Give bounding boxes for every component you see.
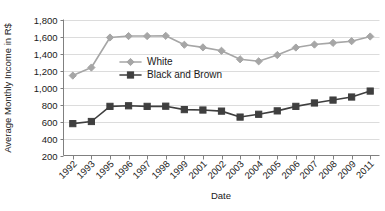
data-point — [293, 103, 299, 109]
data-point — [256, 111, 262, 117]
data-point — [274, 108, 280, 114]
legend-marker-shape — [127, 58, 134, 65]
y-axis — [61, 20, 64, 157]
x-tick-label: 1992 — [56, 158, 79, 181]
x-tick-label: 1997 — [130, 158, 153, 181]
x-tick-labels: 1992199319951996199719981999200120022003… — [56, 158, 376, 181]
y-tick-label: 1,200 — [34, 66, 58, 77]
y-tick-label: 800 — [42, 100, 58, 111]
data-point — [329, 39, 336, 46]
data-point — [70, 121, 76, 127]
y-axis-title: Average Monthly Income in R$ — [2, 22, 13, 152]
data-point — [330, 97, 336, 103]
y-tick-label: 1,600 — [34, 32, 58, 43]
data-point — [181, 41, 188, 48]
x-tick-marks — [74, 156, 371, 160]
legend-marker-shape — [127, 72, 133, 78]
data-point — [88, 64, 95, 71]
legend-label-white: White — [147, 56, 173, 67]
data-point — [163, 103, 169, 109]
x-tick-label: 2007 — [297, 158, 320, 181]
x-tick-label: 2008 — [316, 158, 339, 181]
x-tick-label: 2004 — [242, 158, 265, 181]
series-line — [73, 91, 370, 124]
data-point — [236, 56, 243, 63]
data-point — [348, 38, 355, 45]
y-tick-labels: 2004006008001,0001,2001,4001,6001,800 — [34, 15, 58, 162]
data-point — [255, 58, 262, 65]
legend: White Black and Brown — [120, 56, 222, 80]
data-point — [69, 72, 76, 79]
x-tick-label: 1993 — [74, 158, 97, 181]
legend-label-black-and-brown: Black and Brown — [147, 69, 222, 80]
data-point — [367, 33, 374, 40]
data-point — [107, 103, 113, 109]
x-tick-label: 2006 — [279, 158, 302, 181]
legend-marker-white — [127, 58, 134, 65]
x-axis — [64, 156, 380, 160]
data-point — [125, 32, 132, 39]
data-point — [274, 51, 281, 58]
chart-container: 2004006008001,0001,2001,4001,6001,800 19… — [0, 0, 385, 211]
legend-item-black-and-brown[interactable]: Black and Brown — [120, 69, 222, 80]
y-tick-label: 1,400 — [34, 49, 58, 60]
y-tick-label: 1,800 — [34, 15, 58, 26]
data-point — [237, 114, 243, 120]
legend-marker-black-and-brown — [127, 72, 133, 78]
y-tick-label: 1,000 — [34, 83, 58, 94]
x-axis-title: Date — [211, 190, 231, 201]
data-point — [181, 107, 187, 113]
data-point — [106, 34, 113, 41]
data-point — [199, 44, 206, 51]
x-tick-label: 2003 — [223, 158, 246, 181]
x-tick-label: 1998 — [149, 158, 172, 181]
y-tick-label: 400 — [42, 134, 58, 145]
y-tick-label: 600 — [42, 117, 58, 128]
x-tick-label: 2005 — [260, 158, 283, 181]
data-point — [88, 118, 94, 124]
data-point — [311, 41, 318, 48]
y-tick-label: 200 — [42, 151, 58, 162]
data-point — [218, 47, 225, 54]
data-point — [218, 108, 224, 114]
data-point — [292, 44, 299, 51]
x-tick-label: 2011 — [354, 158, 376, 180]
data-point — [311, 100, 317, 106]
legend-item-white[interactable]: White — [120, 56, 173, 67]
data-point — [349, 94, 355, 100]
data-point — [367, 88, 373, 94]
line-chart: 2004006008001,0001,2001,4001,6001,800 19… — [0, 0, 385, 211]
data-point — [125, 103, 131, 109]
data-point — [144, 103, 150, 109]
x-tick-label: 1996 — [112, 158, 135, 181]
data-point — [144, 32, 151, 39]
x-tick-label: 2001 — [186, 158, 209, 181]
series-black-and-brown — [70, 88, 374, 127]
x-tick-label: 1999 — [167, 158, 190, 181]
data-point — [162, 32, 169, 39]
x-tick-label: 2009 — [335, 158, 358, 181]
x-tick-label: 1995 — [93, 158, 116, 181]
data-point — [200, 107, 206, 113]
x-tick-label: 2002 — [205, 158, 228, 181]
